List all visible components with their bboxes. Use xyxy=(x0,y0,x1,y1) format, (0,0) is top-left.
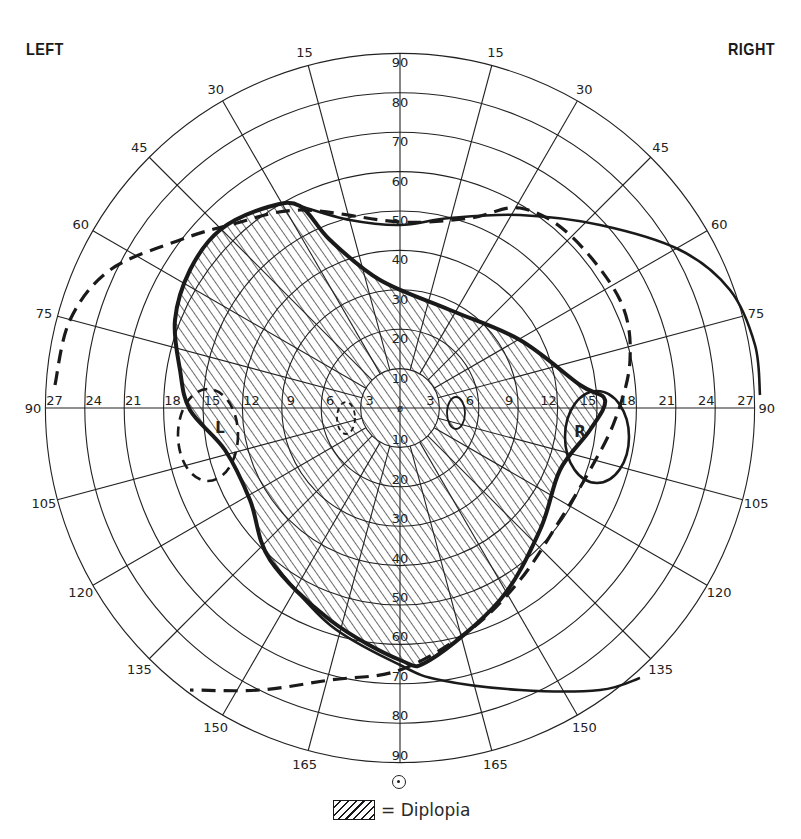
svg-text:90: 90 xyxy=(25,401,42,416)
svg-text:105: 105 xyxy=(744,496,769,511)
svg-text:9: 9 xyxy=(287,393,295,408)
svg-text:30: 30 xyxy=(392,292,409,307)
svg-text:120: 120 xyxy=(707,585,732,600)
svg-text:120: 120 xyxy=(68,585,93,600)
svg-text:135: 135 xyxy=(127,662,152,677)
svg-text:150: 150 xyxy=(572,720,597,735)
svg-text:18: 18 xyxy=(164,393,181,408)
svg-text:21: 21 xyxy=(659,393,676,408)
svg-text:135: 135 xyxy=(648,662,673,677)
svg-text:ø: ø xyxy=(397,403,403,414)
polar-field-chart: 1020304050607080901020304050607080903366… xyxy=(0,0,801,839)
svg-text:6: 6 xyxy=(466,393,474,408)
svg-text:45: 45 xyxy=(652,140,669,155)
svg-text:3: 3 xyxy=(426,393,434,408)
svg-text:24: 24 xyxy=(698,393,715,408)
svg-text:75: 75 xyxy=(36,306,53,321)
svg-text:40: 40 xyxy=(392,252,409,267)
svg-text:10: 10 xyxy=(392,371,409,386)
svg-text:6: 6 xyxy=(326,393,334,408)
svg-text:L: L xyxy=(215,419,225,437)
svg-text:150: 150 xyxy=(203,720,228,735)
svg-text:12: 12 xyxy=(243,393,260,408)
svg-text:24: 24 xyxy=(86,393,103,408)
svg-text:50: 50 xyxy=(392,590,409,605)
svg-text:20: 20 xyxy=(392,331,409,346)
svg-text:30: 30 xyxy=(576,82,593,97)
fixation-target-icon xyxy=(392,775,406,789)
svg-text:60: 60 xyxy=(392,174,409,189)
svg-text:12: 12 xyxy=(540,393,557,408)
svg-text:9: 9 xyxy=(505,393,513,408)
svg-text:3: 3 xyxy=(365,393,373,408)
svg-text:20: 20 xyxy=(392,472,409,487)
svg-text:R: R xyxy=(574,423,586,441)
svg-text:40: 40 xyxy=(392,551,409,566)
svg-text:90: 90 xyxy=(392,55,409,70)
svg-text:90: 90 xyxy=(759,401,776,416)
svg-text:80: 80 xyxy=(392,95,409,110)
svg-text:60: 60 xyxy=(392,629,409,644)
legend-label: = Diplopia xyxy=(381,800,470,820)
svg-text:50: 50 xyxy=(392,213,409,228)
svg-text:21: 21 xyxy=(125,393,142,408)
svg-text:60: 60 xyxy=(711,217,728,232)
svg-text:30: 30 xyxy=(207,82,224,97)
svg-text:90: 90 xyxy=(392,748,409,763)
svg-text:70: 70 xyxy=(392,134,409,149)
hatch-swatch-icon xyxy=(333,800,375,820)
svg-text:15: 15 xyxy=(580,393,597,408)
svg-text:18: 18 xyxy=(619,393,636,408)
svg-text:75: 75 xyxy=(748,306,765,321)
svg-text:27: 27 xyxy=(46,393,63,408)
svg-text:30: 30 xyxy=(392,511,409,526)
svg-text:15: 15 xyxy=(296,45,313,60)
svg-text:105: 105 xyxy=(32,496,57,511)
svg-text:80: 80 xyxy=(392,708,409,723)
svg-text:70: 70 xyxy=(392,669,409,684)
svg-text:165: 165 xyxy=(292,757,317,772)
svg-text:60: 60 xyxy=(73,217,90,232)
svg-text:15: 15 xyxy=(204,393,221,408)
legend: = Diplopia xyxy=(333,800,470,820)
svg-text:27: 27 xyxy=(737,393,754,408)
svg-text:165: 165 xyxy=(483,757,508,772)
svg-text:45: 45 xyxy=(131,140,148,155)
svg-text:15: 15 xyxy=(487,45,504,60)
svg-text:10: 10 xyxy=(392,432,409,447)
